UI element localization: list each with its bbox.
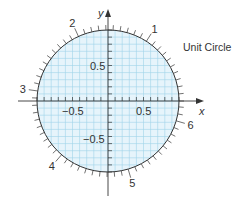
diagram-title: Unit Circle (183, 41, 232, 53)
y-tick-label-pos-half: 0.5 (90, 60, 105, 72)
y-tick-label-neg-half: −0.5 (83, 133, 105, 145)
radian-label-4: 4 (49, 160, 55, 172)
x-tick-label-neg-half: −0.5 (62, 105, 84, 117)
radian-label-5: 5 (129, 177, 135, 189)
y-axis-arrow-icon (105, 9, 111, 17)
radian-label-6: 6 (188, 119, 194, 131)
y-axis-label: y (97, 7, 105, 19)
x-tick-label-pos-half: 0.5 (136, 105, 151, 117)
unit-circle-diagram: x y −0.5 0.5 0.5 −0.5 Unit Circle 123456 (0, 0, 238, 204)
radian-label-3: 3 (20, 83, 26, 95)
x-axis-label: x (198, 105, 205, 117)
x-axis-arrow-icon (196, 98, 204, 104)
radian-label-2: 2 (69, 17, 75, 29)
radian-label-1: 1 (151, 23, 157, 35)
